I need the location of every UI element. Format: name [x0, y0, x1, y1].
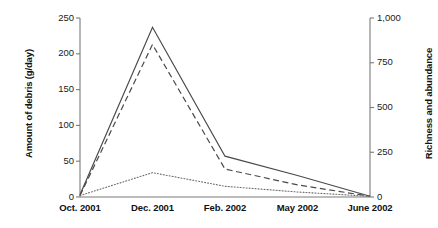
right-tick-label: 500: [377, 101, 423, 112]
series-line-dashed-series: [80, 44, 370, 196]
left-tick-label: 200: [34, 47, 74, 58]
axis-lines: [80, 18, 370, 197]
left-tick-label: 100: [34, 119, 74, 130]
left-tick-label: 250: [34, 12, 74, 23]
left-tick-label: 50: [34, 155, 74, 166]
left-axis-ticks: [76, 18, 80, 197]
x-tick-label: Oct. 2001: [40, 202, 120, 213]
x-tick-label: June 2002: [330, 202, 410, 213]
x-tick-label: Feb. 2002: [185, 202, 265, 213]
right-tick-label: 750: [377, 56, 423, 67]
right-tick-label: 1,000: [377, 12, 423, 23]
series-line-dotted-series: [80, 173, 370, 197]
chart-figure: Amount of debris (g/day) Richness and ab…: [0, 0, 438, 228]
series-line-solid-series: [80, 27, 370, 196]
series-paths: [80, 27, 370, 196]
left-tick-label: 0: [34, 191, 74, 202]
x-tick-label: Dec. 2001: [113, 202, 193, 213]
x-tick-label: May 2002: [258, 202, 338, 213]
right-tick-label: 250: [377, 146, 423, 157]
right-tick-label: 0: [377, 191, 423, 202]
right-axis-ticks: [370, 18, 374, 197]
left-tick-label: 150: [34, 83, 74, 94]
